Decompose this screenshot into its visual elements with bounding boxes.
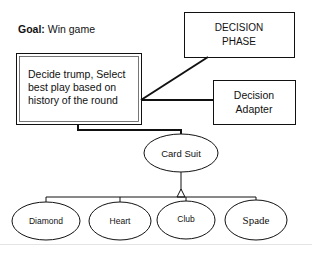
decision-adapter-text: Decision Adapter	[214, 81, 294, 123]
decision-adapter-line1: Decision	[234, 88, 274, 102]
decision-adapter-line2: Adapter	[234, 102, 274, 116]
main-task-label: Decide trump, Select best play based on …	[28, 68, 138, 107]
card-suit-label: Card Suit	[144, 134, 218, 172]
goal-label: Goal:	[18, 23, 45, 35]
connector-card-suit	[78, 124, 181, 134]
suit-label-diamond: Diamond	[12, 202, 80, 240]
suit-label-spade: Spade	[225, 200, 287, 240]
main-task-text: Decide trump, Select best play based on …	[28, 66, 138, 108]
decision-phase-line2: PHASE	[215, 35, 263, 49]
suit-label-heart: Heart	[89, 202, 151, 240]
decision-phase-text: DECISION PHASE	[185, 13, 293, 56]
generalization-triangle	[177, 189, 185, 197]
goal-statement: Goal: Win game	[18, 23, 95, 35]
connector-phase	[141, 57, 208, 100]
goal-value: Win game	[48, 23, 95, 35]
suit-label-club: Club	[157, 200, 215, 238]
decision-phase-line1: DECISION	[215, 21, 263, 35]
